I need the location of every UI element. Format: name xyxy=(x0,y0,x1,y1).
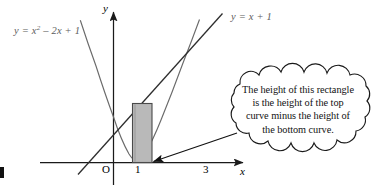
x-axis-label: x xyxy=(240,165,245,177)
line-equation-label: y = x + 1 xyxy=(231,11,272,22)
x-tick-label-1: 1 xyxy=(135,163,141,175)
exponent-2: 2 xyxy=(37,24,41,32)
page-edge-artifact xyxy=(0,167,4,178)
callout-line-3: curve minus the height of xyxy=(232,109,364,122)
callout-line-2: is the height of the top xyxy=(232,96,364,109)
parabola-equation-label: y = x2 – 2x + 1 xyxy=(14,25,80,36)
callout-pointer xyxy=(154,133,238,162)
parabola-equation-text: y = x2 – 2x + 1 xyxy=(14,25,80,36)
x-tick-label-3: 3 xyxy=(203,163,209,175)
callout-text: The height of this rectangle is the heig… xyxy=(232,83,364,136)
figure-area-between-curves: y = x2 – 2x + 1 y = x + 1 y x O 1 3 The … xyxy=(0,0,372,189)
y-axis-label: y xyxy=(103,2,108,14)
callout-line-4: the bottom curve. xyxy=(232,123,364,136)
callout-line-1: The height of this rectangle xyxy=(232,83,364,96)
origin-label: O xyxy=(102,163,110,175)
